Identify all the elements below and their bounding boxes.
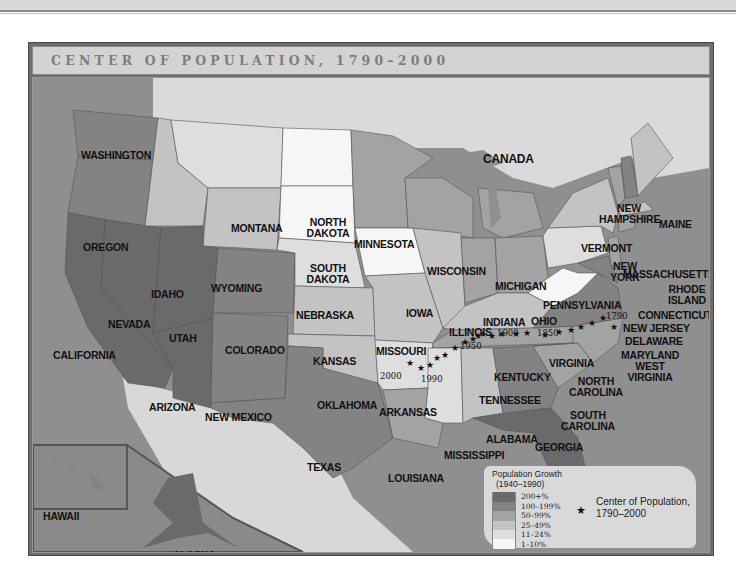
label-delaware: DELAWARE xyxy=(625,336,683,347)
label-alaska: ALASKA xyxy=(173,550,216,553)
center-star: ★ xyxy=(451,344,459,353)
legend-swatch xyxy=(492,539,516,550)
label-maine: MAINE xyxy=(659,219,692,230)
state-michigan xyxy=(478,188,543,238)
label-new-mexico: NEW MEXICO xyxy=(205,412,272,423)
label-montana: MONTANA xyxy=(231,223,282,234)
label-new-jersey: NEW JERSEY xyxy=(623,323,690,334)
legend-swatch xyxy=(492,502,516,512)
center-star: ★ xyxy=(417,364,425,373)
center-star: ★ xyxy=(461,338,469,347)
center-star: ★ xyxy=(441,351,449,360)
star-icon: ★ xyxy=(576,504,586,517)
label-indiana: INDIANA xyxy=(483,317,525,328)
legend-item: 100–199% xyxy=(492,502,561,512)
label-alabama: ALABAMA xyxy=(486,434,538,445)
center-star: ★ xyxy=(567,326,575,335)
year-label-1790: 1790 xyxy=(606,311,628,321)
year-label-1990: 1990 xyxy=(421,374,443,384)
center-star: ★ xyxy=(599,314,607,323)
center-star: ★ xyxy=(541,331,549,340)
label-vermont: VERMONT xyxy=(581,243,632,254)
label-colorado: COLORADO xyxy=(225,345,285,356)
center-star: ★ xyxy=(488,332,496,341)
label-new-hampshire: NEW HAMPSHIRE xyxy=(599,203,659,225)
legend-center-label: Center of Population, 1790–2000 xyxy=(596,496,690,520)
label-kentucky: KENTUCKY xyxy=(494,372,551,383)
label-utah: UTAH xyxy=(169,333,197,344)
center-star: ★ xyxy=(406,359,414,368)
label-missouri: MISSOURI xyxy=(376,346,426,357)
label-north-dakota: NORTH DAKOTA xyxy=(298,217,358,239)
label-california: CALIFORNIA xyxy=(53,350,116,361)
label-minnesota: MINNESOTA xyxy=(354,239,414,250)
year-label-2000: 2000 xyxy=(380,371,402,381)
map-figure-frame: CENTER OF POPULATION, 1790–2000 xyxy=(28,42,714,556)
top-divider xyxy=(0,13,736,14)
label-arizona: ARIZONA xyxy=(149,402,195,413)
legend-list: 200+% 100–199% 50–99% 25–49% 11–24% 1–10… xyxy=(492,492,561,549)
legend-swatch xyxy=(492,521,516,531)
label-nevada: NEVADA xyxy=(108,319,150,330)
label-south-carolina: SOUTH CAROLINA xyxy=(558,410,618,432)
legend-item: 25–49% xyxy=(492,521,561,531)
legend-swatch xyxy=(492,511,516,521)
label-canada: CANADA xyxy=(483,154,534,165)
center-star: ★ xyxy=(498,330,506,339)
label-texas: TEXAS xyxy=(307,462,341,473)
legend-swatch xyxy=(492,492,516,502)
label-mississippi: MISSISSIPPI xyxy=(444,450,504,461)
label-nebraska: NEBRASKA xyxy=(296,310,354,321)
top-page-bar xyxy=(0,0,736,12)
map-title: CENTER OF POPULATION, 1790–2000 xyxy=(51,53,449,68)
label-michigan: MICHIGAN xyxy=(495,281,546,292)
label-virginia: VIRGINIA xyxy=(549,358,594,369)
label-wisconsin: WISCONSIN xyxy=(427,266,486,277)
label-arkansas: ARKANSAS xyxy=(379,407,437,418)
center-star: ★ xyxy=(479,330,487,339)
label-north-carolina: NORTH CAROLINA xyxy=(566,376,626,398)
hawaii-inset xyxy=(33,445,127,509)
label-idaho: IDAHO xyxy=(151,289,184,300)
legend-item: 200+% xyxy=(492,492,561,502)
label-pennsylvania: PENNSYLVANIA xyxy=(543,300,621,311)
center-star: ★ xyxy=(555,328,563,337)
label-ohio: OHIO xyxy=(531,316,557,327)
label-washington: WASHINGTON xyxy=(81,150,151,161)
state-north-dakota xyxy=(281,128,353,186)
center-star: ★ xyxy=(577,323,585,332)
label-rhode-island: RHODE ISLAND xyxy=(667,284,707,306)
state-colorado xyxy=(213,248,295,313)
label-wyoming: WYOMING xyxy=(211,283,262,294)
legend: Population Growth (1940–1990) 200+% 100–… xyxy=(484,466,696,548)
label-tennessee: TENNESSEE xyxy=(479,395,541,406)
state-wyoming xyxy=(203,188,281,250)
label-kansas: KANSAS xyxy=(313,356,356,367)
state-new-mexico xyxy=(211,313,288,403)
label-hawaii: HAWAII xyxy=(43,511,79,522)
legend-item: 50–99% xyxy=(492,511,561,521)
label-connecticut: CONNECTICUT xyxy=(638,310,710,321)
label-georgia: GEORGIA xyxy=(535,442,583,453)
label-massachusetts: MASSACHUSETTS xyxy=(623,269,710,280)
state-iowa xyxy=(355,228,425,276)
title-bar: CENTER OF POPULATION, 1790–2000 xyxy=(32,46,710,75)
legend-title: Population Growth (1940–1990) xyxy=(492,469,562,489)
center-star: ★ xyxy=(588,319,596,328)
label-iowa: IOWA xyxy=(406,308,433,319)
center-star: ★ xyxy=(433,354,441,363)
label-south-dakota: SOUTH DAKOTA xyxy=(298,263,358,285)
label-louisiana: LOUISIANA xyxy=(388,473,444,484)
label-maryland: MARYLAND xyxy=(621,350,679,361)
center-star: ★ xyxy=(523,329,531,338)
us-map: CANADA WASHINGTON OREGON CALIFORNIA NEVA… xyxy=(32,77,710,553)
label-oregon: OREGON xyxy=(83,242,128,253)
legend-item: 1–10% xyxy=(492,540,561,550)
label-west-virginia: WEST VIRGINIA xyxy=(625,361,675,383)
center-star: ★ xyxy=(610,323,618,332)
label-oklahoma: OKLAHOMA xyxy=(317,400,377,411)
center-star: ★ xyxy=(512,330,520,339)
